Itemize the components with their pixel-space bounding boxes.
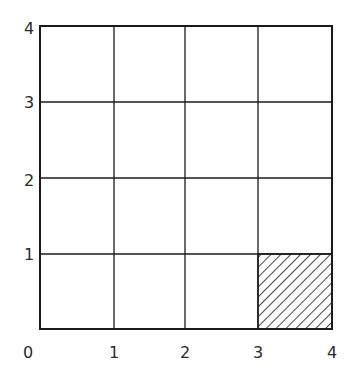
y-label-2: 2 — [24, 171, 34, 190]
y-label-1: 1 — [24, 245, 34, 264]
y-axis-labels: 1 2 3 4 — [24, 19, 34, 264]
shaded-cell — [258, 254, 332, 329]
x-label-4: 4 — [327, 343, 337, 362]
x-label-0: 0 — [23, 343, 33, 362]
grid-diagram: 0 1 2 3 4 1 2 3 4 — [0, 0, 351, 372]
y-label-4: 4 — [24, 19, 34, 38]
x-label-2: 2 — [180, 343, 190, 362]
x-axis-labels: 0 1 2 3 4 — [23, 343, 337, 362]
y-label-3: 3 — [24, 93, 34, 112]
x-label-1: 1 — [109, 343, 119, 362]
x-label-3: 3 — [253, 343, 263, 362]
